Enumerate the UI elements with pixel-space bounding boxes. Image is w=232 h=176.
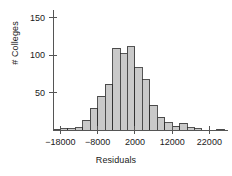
y-axis (49, 10, 57, 130)
x-axis-tick-label: −8000 (85, 137, 110, 147)
x-tick-labels: −18000−800020001200022000 (45, 137, 222, 147)
histogram-bar (105, 84, 112, 130)
histogram-bar (90, 108, 97, 130)
histogram-bar (172, 126, 179, 130)
histogram-bar (127, 47, 134, 130)
x-axis-tick-label: 22000 (197, 137, 222, 147)
histogram-bar (120, 54, 127, 131)
histogram-bar (157, 117, 164, 130)
histogram-bar (150, 105, 157, 130)
y-axis-tick-label: 50 (35, 88, 45, 98)
histogram-plot: −18000−800020001200022000 50100150 (0, 0, 232, 176)
histogram-bar (113, 48, 120, 130)
y-axis-tick-label: 150 (30, 13, 45, 23)
x-axis-tick-label: 2000 (125, 137, 145, 147)
histogram-bar (165, 123, 172, 131)
histogram-bar (135, 68, 142, 130)
histogram-bar (180, 123, 187, 130)
histogram-bar (83, 120, 90, 130)
y-axis-tick-label: 100 (30, 50, 45, 60)
x-axis-tick-label: −18000 (45, 137, 75, 147)
histogram-bar (142, 80, 149, 130)
y-tick-labels: 50100150 (30, 13, 45, 98)
histogram-bars (53, 47, 224, 130)
histogram-figure: # Colleges Residuals −18000−800020001200… (0, 0, 232, 176)
x-axis-tick-label: 12000 (160, 137, 185, 147)
histogram-bar (98, 96, 105, 130)
